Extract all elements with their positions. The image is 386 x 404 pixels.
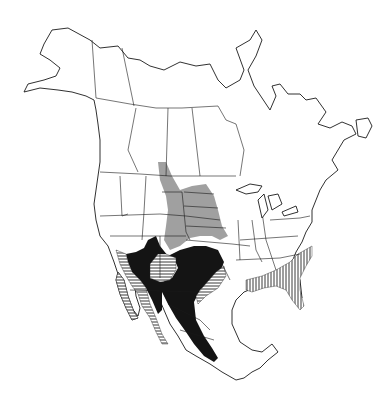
range-map [0,0,386,404]
newfoundland [356,118,372,138]
